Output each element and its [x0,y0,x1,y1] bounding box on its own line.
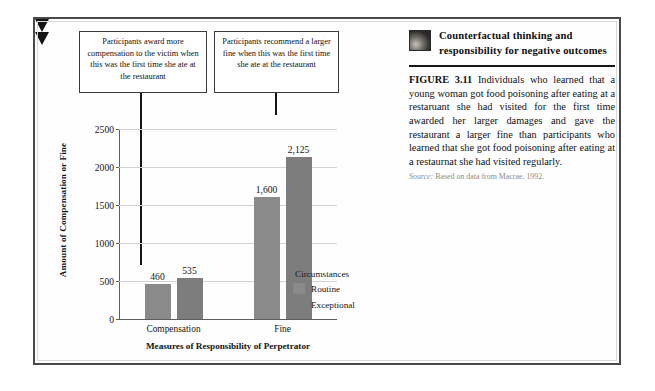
caption-body: FIGURE 3.11 Individuals who learned that… [409,73,615,168]
y-tick-label: 1500 [95,199,114,210]
caption-header: Counterfactual thinking and responsibili… [409,29,615,58]
chart-panel: Participants award more compensation to … [35,19,405,363]
callout-fine-arrow-head-icon [35,32,49,45]
callout-compensation-arrow-head-icon [35,19,49,32]
y-tick-mark [116,243,119,244]
legend-item-label: Routine [311,284,340,294]
chart-legend: Circumstances RoutineExceptional [293,269,399,315]
y-tick-label: 2500 [95,124,114,135]
y-tick-label: 1000 [95,237,114,248]
caption-panel: Counterfactual thinking and responsibili… [409,29,615,182]
y-tick-label: 2000 [95,161,114,172]
y-tick-label: 0 [109,313,114,324]
legend-item-label: Exceptional [311,300,355,310]
y-tick-mark [116,205,119,206]
figure-number-label: FIGURE 3.11 [409,74,472,85]
restaurant-photo-thumbnail [409,30,431,51]
legend-item-exceptional[interactable]: Exceptional [293,299,399,310]
legend-swatch-icon [293,299,305,310]
caption-source: Source: Based on data from Macrae, 1992. [409,171,615,182]
y-tick-mark [116,281,119,282]
caption-source-prefix: Source: [409,172,433,181]
callout-fine-arrow-shaft [275,93,277,115]
caption-header-title: Counterfactual thinking and responsibili… [439,29,615,58]
y-axis-line [119,129,120,320]
bar-exceptional-compensation: 535 [177,278,203,319]
caption-divider [409,65,615,67]
bar-value-label: 1,600 [256,184,278,195]
callout-fine: Participants recommend a larger fine whe… [214,31,339,93]
bar-routine-compensation: 460 [145,284,171,319]
y-tick-mark [116,167,119,168]
caption-body-text: Individuals who learned that a young wom… [409,74,615,167]
figure-frame: Participants award more compensation to … [33,17,621,365]
x-axis-line [119,319,337,320]
x-category-label: Fine [274,324,291,334]
bar-value-label: 535 [182,265,196,276]
y-tick-mark [116,129,119,130]
gridline [119,129,337,130]
x-category-label: Compensation [146,324,200,334]
y-axis-title: Amount of Compensation or Fine [58,120,68,300]
callout-compensation: Participants award more compensation to … [79,31,207,93]
bar-routine-fine: 1,600 [254,197,280,318]
legend-title: Circumstances [293,269,399,279]
y-tick-mark [116,319,119,320]
legend-swatch-icon [293,283,305,294]
y-tick-label: 500 [100,275,114,286]
legend-item-routine[interactable]: Routine [293,283,399,294]
bar-value-label: 460 [150,271,164,282]
bar-value-label: 2,125 [288,144,310,155]
caption-source-text: Based on data from Macrae, 1992. [435,172,544,181]
x-axis-title: Measures of Responsibility of Perpetrato… [119,341,337,351]
